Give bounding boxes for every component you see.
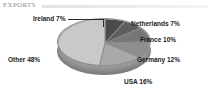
- pie-label-germany: Germany 12%: [137, 56, 180, 63]
- pie-label-ireland: Ireland 7%: [33, 15, 66, 22]
- page-title: EXPORTS: [3, 1, 36, 9]
- leader-line-ireland-tick: [103, 19, 104, 27]
- pie-label-netherlands: Netherlands 7%: [131, 20, 180, 27]
- leader-line-ireland: [68, 19, 104, 20]
- pie-label-usa: USA 16%: [124, 78, 152, 85]
- pie-chart-plot-area: Ireland 7% Netherlands 7% France 10% Ger…: [0, 13, 210, 94]
- chart-screenshot: EXPORTS Ireland 7% Netherlands 7% France…: [0, 0, 210, 94]
- header-divider: [42, 5, 208, 8]
- pie-chart: [57, 18, 151, 80]
- chart-header: EXPORTS: [0, 0, 210, 13]
- pie-label-other: Other 48%: [8, 56, 40, 63]
- pie-label-france: France 10%: [140, 36, 176, 43]
